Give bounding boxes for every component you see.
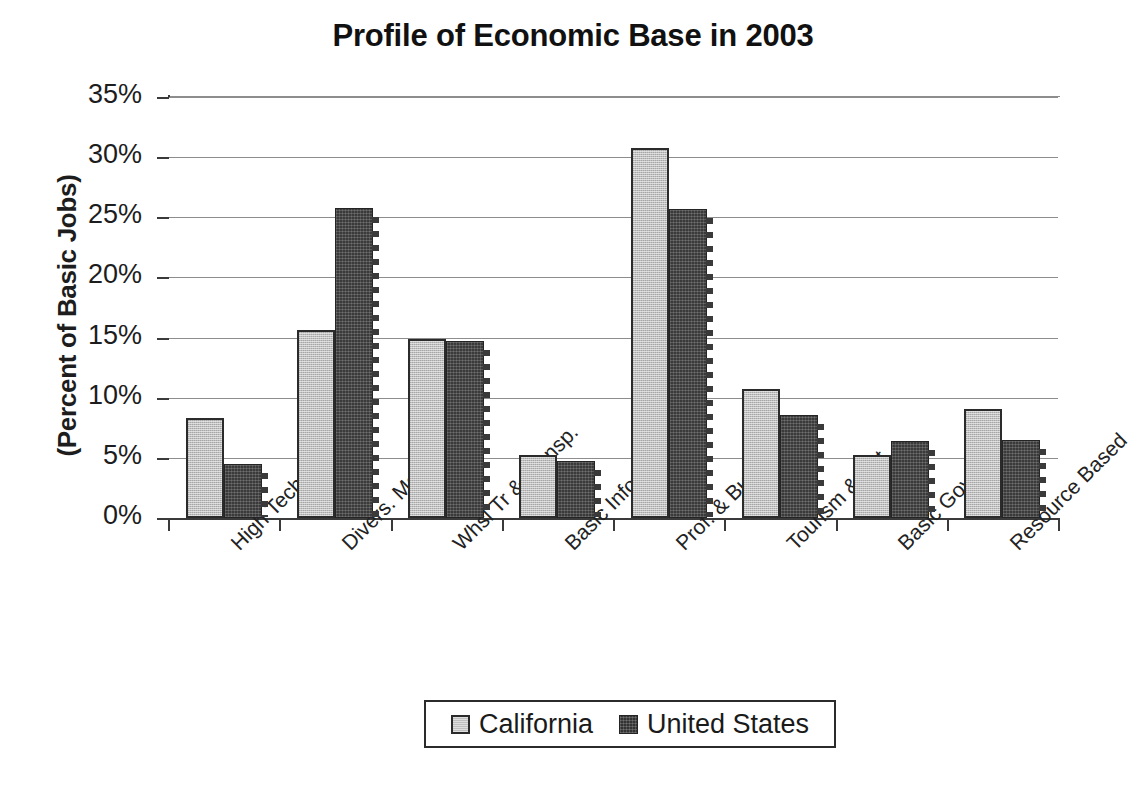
x-axis-tick — [1058, 519, 1060, 531]
legend-item-california: California — [451, 709, 593, 740]
y-axis-tick-label: 5% — [52, 440, 142, 471]
x-axis-tick — [724, 519, 726, 531]
y-axis-tick-label: 20% — [52, 259, 142, 290]
bar-united-states — [669, 209, 707, 518]
chart-legend: California United States — [424, 700, 836, 748]
bar-chart: Profile of Economic Base in 2003 (Percen… — [0, 0, 1146, 799]
bar-united-states — [557, 461, 595, 518]
y-axis-tick-label: 15% — [52, 320, 142, 351]
x-axis-tick — [168, 519, 170, 531]
x-axis-tick — [279, 519, 281, 531]
x-axis-tick — [947, 519, 949, 531]
legend-swatch-california-icon — [451, 715, 470, 734]
x-axis-tick — [836, 519, 838, 531]
bar-shadow-texture — [817, 424, 824, 517]
bar-united-states — [1002, 440, 1040, 518]
bar-shadow-texture — [1039, 449, 1046, 517]
y-axis-tick — [157, 217, 169, 219]
y-axis-tick-label: 10% — [52, 380, 142, 411]
bar-united-states — [891, 441, 929, 518]
bar-shadow-texture — [706, 218, 713, 517]
bar-united-states — [335, 208, 373, 518]
x-axis-tick — [391, 519, 393, 531]
bar-california — [631, 148, 669, 518]
y-axis-tick-label: 25% — [52, 199, 142, 230]
gridline — [168, 97, 1058, 98]
legend-label-california: California — [479, 709, 593, 740]
bar-california — [408, 339, 446, 518]
y-axis-tick — [157, 97, 169, 99]
y-axis-tick — [157, 157, 169, 159]
y-axis-tick — [157, 458, 169, 460]
y-axis-tick — [157, 277, 169, 279]
bar-california — [853, 455, 891, 518]
chart-title: Profile of Economic Base in 2003 — [0, 18, 1146, 54]
legend-label-united-states: United States — [647, 709, 809, 740]
bar-california — [297, 330, 335, 518]
x-axis-tick — [613, 519, 615, 531]
y-axis-tick — [157, 338, 169, 340]
legend-swatch-united-states-icon — [619, 715, 638, 734]
gridline — [168, 217, 1058, 218]
y-axis-tick — [157, 398, 169, 400]
bar-california — [742, 389, 780, 518]
y-axis-tick-label: 0% — [52, 500, 142, 531]
bar-california — [186, 418, 224, 518]
bar-shadow-texture — [928, 450, 935, 517]
gridline — [168, 277, 1058, 278]
bar-shadow-texture — [372, 217, 379, 517]
y-axis-tick-label: 30% — [52, 139, 142, 170]
legend-item-united-states: United States — [619, 709, 809, 740]
plot-area — [168, 97, 1058, 518]
bar-shadow-texture — [594, 470, 601, 517]
bar-united-states — [224, 464, 262, 518]
bar-california — [519, 455, 557, 518]
bar-california — [964, 409, 1002, 518]
y-axis-tick-label: 35% — [52, 79, 142, 110]
bar-united-states — [780, 415, 818, 518]
gridline — [168, 157, 1058, 158]
x-axis-tick — [502, 519, 504, 531]
bar-shadow-texture — [261, 473, 268, 517]
bar-shadow-texture — [483, 350, 490, 517]
bar-united-states — [446, 341, 484, 518]
